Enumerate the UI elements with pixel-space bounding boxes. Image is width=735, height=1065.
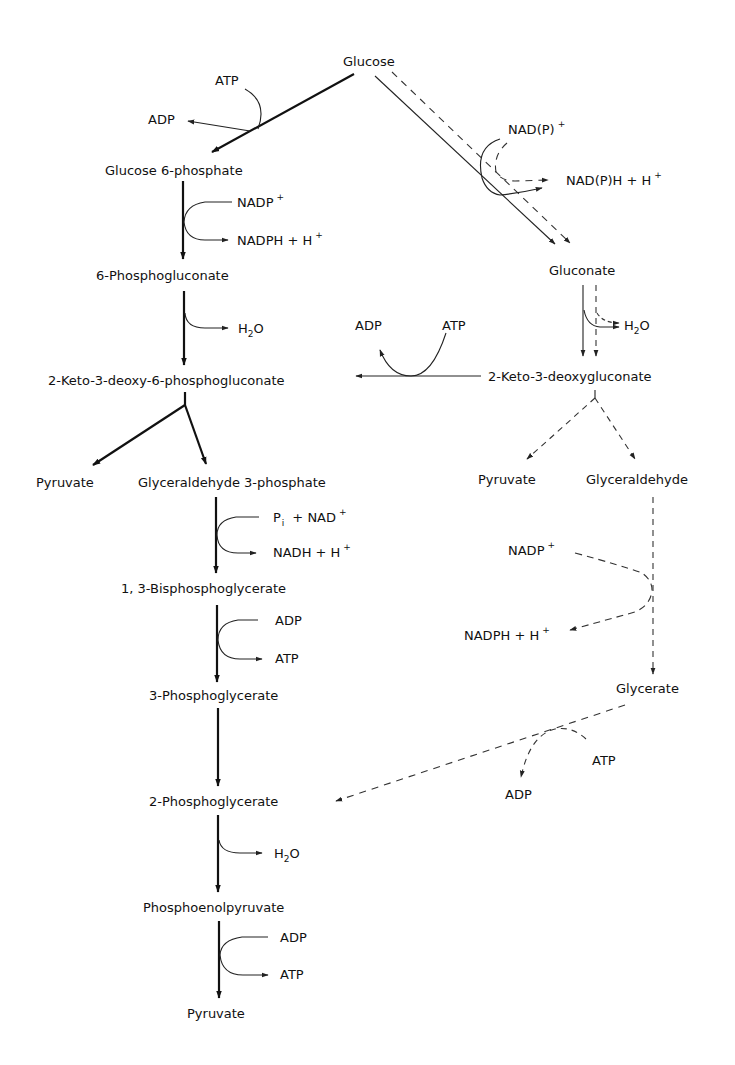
cofactor-curve-h2o	[185, 313, 228, 328]
cofactor-curve-nadp-solid	[480, 139, 542, 195]
cofactor-curve-atp-adp	[380, 333, 446, 376]
cofactor-atp-2: ATP	[280, 967, 304, 982]
cofactor-curve-atp-adp-right	[521, 728, 586, 777]
cofactor-atp-1: ATP	[275, 651, 299, 666]
metabolite-phosphoenolpyruvate: Phosphoenolpyruvate	[143, 900, 284, 915]
cofactor-h2o-2: H2O	[274, 846, 300, 864]
arrow-to-adp	[188, 121, 250, 131]
cofactor-h2o-right: H2O	[624, 318, 650, 336]
metabolite-glyceraldehyde: Glyceraldehyde	[586, 472, 688, 487]
arrow-glucose-to-gluconate-solid	[375, 76, 555, 244]
metabolite-gluconate: Gluconate	[549, 263, 615, 278]
metabolite-3-phosphoglycerate: 3-Phosphoglycerate	[149, 688, 278, 703]
cofactor-curve-adp-atp-1	[218, 620, 262, 659]
metabolite-glycerate: Glycerate	[616, 681, 679, 696]
cofactor-pi-nad: Pi+ NAD+	[273, 507, 347, 528]
cofactor-curve-nadp	[184, 202, 232, 240]
cofactor-nadph-h: NAD(P)H + H+	[566, 170, 662, 188]
cofactor-curve-pi-nad	[217, 517, 259, 553]
metabolite-6-phosphogluconate: 6-Phosphogluconate	[96, 268, 229, 283]
metabolite-glyceraldehyde-3-phosphate: Glyceraldehyde 3-phosphate	[138, 475, 326, 490]
arrow-glycerate-to-2pg	[336, 705, 625, 801]
cofactor-nadph-right: NADPH + H+	[464, 625, 550, 643]
cofactor-nadph: NADPH + H+	[237, 230, 323, 248]
arrow-kdpg-to-pyruvate	[93, 405, 185, 465]
metabolite-pyruvate-1: Pyruvate	[36, 475, 94, 490]
arrow-kdg-to-glyceraldehyde	[595, 398, 635, 459]
metabolite-kdpg: 2-Keto-3-deoxy-6-phosphogluconate	[48, 373, 285, 388]
cofactor-atp-glycerate: ATP	[592, 753, 616, 768]
metabolite-2-keto-3-deoxygluconate: 2-Keto-3-deoxygluconate	[488, 369, 651, 384]
metabolite-pyruvate-3: Pyruvate	[478, 472, 536, 487]
cofactor-curve-h2o-dashed	[597, 313, 619, 323]
pathway-diagram: Glucose ATP ADP Glucose 6-phosphate NADP…	[0, 0, 735, 1065]
cofactor-atp-right: ATP	[442, 318, 466, 333]
cofactor-curve-atp	[245, 89, 261, 129]
arrow-kdpg-to-g3p	[185, 405, 206, 464]
cofactor-nadp-right: NADP+	[508, 540, 555, 558]
metabolite-glucose-6-phosphate: Glucose 6-phosphate	[105, 163, 243, 178]
cofactor-atp: ATP	[215, 73, 239, 88]
metabolite-glucose: Glucose	[343, 54, 395, 69]
cofactor-nadh: NADH + H+	[273, 542, 351, 560]
cofactor-adp-2: ADP	[280, 930, 307, 945]
cofactor-nadp: NADP+	[237, 192, 284, 210]
cofactor-h2o: H2O	[238, 321, 264, 339]
cofactor-adp-1: ADP	[275, 613, 302, 628]
cofactor-curve-h2o-2	[219, 840, 262, 853]
cofactor-nadp-plus: NAD(P)+	[508, 119, 565, 137]
cofactor-adp: ADP	[148, 112, 175, 127]
arrow-kdg-to-pyruvate	[527, 398, 595, 459]
metabolite-1-3-bisphosphoglycerate: 1, 3-Bisphosphoglycerate	[121, 581, 286, 596]
cofactor-curve-nadp-dashed	[495, 143, 548, 181]
metabolite-pyruvate-2: Pyruvate	[187, 1006, 245, 1021]
metabolite-2-phosphoglycerate: 2-Phosphoglycerate	[149, 794, 278, 809]
cofactor-adp-right: ADP	[355, 318, 382, 333]
cofactor-adp-glycerate: ADP	[505, 787, 532, 802]
cofactor-curve-nadp-right	[570, 553, 652, 630]
cofactor-curve-adp-atp-2	[220, 937, 268, 975]
